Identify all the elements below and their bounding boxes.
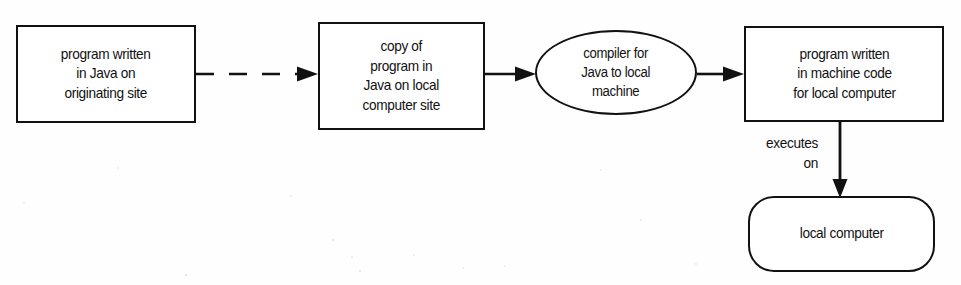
- node-local-computer-label: local computer: [799, 224, 883, 244]
- edge-to-compiler-arrowhead: [515, 67, 536, 82]
- edge-transfer-dashed-arrow: [196, 62, 320, 86]
- edge-transfer-arrowhead: [297, 67, 318, 82]
- node-compiler-label: compiler for Java to local machine: [582, 44, 651, 101]
- diagram-canvas: program written in Java on originating s…: [0, 0, 961, 285]
- node-source-program-label: program written in Java on originating s…: [61, 45, 151, 104]
- edge-executes-on-arrow: [828, 121, 852, 199]
- edge-executes-on-label: executes on: [705, 134, 818, 173]
- node-machine-code-program[interactable]: program written in machine code for loca…: [744, 26, 944, 122]
- node-local-computer[interactable]: local computer: [748, 196, 935, 272]
- node-machine-code-program-label: program written in machine code for loca…: [793, 45, 895, 104]
- node-source-program[interactable]: program written in Java on originating s…: [16, 25, 196, 123]
- edge-to-machine-code-arrow: [697, 62, 745, 86]
- edge-to-machine-code-arrowhead: [723, 67, 744, 82]
- node-compiler[interactable]: compiler for Java to local machine: [535, 30, 697, 115]
- node-copied-program-label: copy of program in Java on local compute…: [363, 37, 441, 115]
- node-copied-program[interactable]: copy of program in Java on local compute…: [318, 22, 485, 130]
- edge-to-compiler-arrow: [485, 62, 537, 86]
